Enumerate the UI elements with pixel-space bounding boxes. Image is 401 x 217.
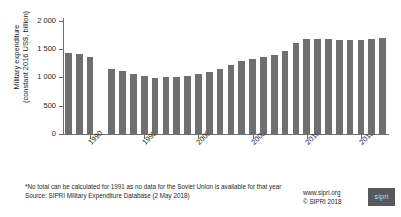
sipri-logo: sipri (368, 188, 395, 206)
copyright-text: © SIPRI 2018 (303, 198, 363, 207)
bar (163, 77, 170, 134)
bar (173, 77, 180, 134)
bar (260, 57, 267, 134)
bar-series (63, 14, 388, 134)
bar (152, 78, 159, 134)
bar (108, 69, 115, 134)
bar (249, 59, 256, 134)
bar (303, 39, 310, 134)
bar (379, 38, 386, 134)
bar (130, 74, 137, 134)
footer-notes: *No total can be calculated for 1991 as … (25, 182, 315, 200)
y-axis-title-line2: (constant 2016 US$, billion) (21, 11, 30, 103)
bar (76, 54, 83, 134)
y-tick-label: 1 000 (0, 73, 56, 81)
bar (217, 69, 224, 134)
footnote-text: *No total can be calculated for 1991 as … (25, 182, 315, 191)
y-tick-mark (59, 134, 63, 135)
bar (347, 40, 354, 134)
bar (293, 43, 300, 134)
bar (206, 72, 213, 134)
credit-block: www.sipri.org © SIPRI 2018 (303, 189, 363, 206)
bar (314, 39, 321, 134)
bar (87, 57, 94, 134)
bar (65, 53, 72, 134)
source-text: Source: SIPRI Military Expenditure Datab… (25, 191, 315, 200)
x-axis-line (63, 134, 389, 135)
bar (228, 65, 235, 134)
bar (358, 40, 365, 134)
chart-figure: Military expenditure (constant 2016 US$,… (0, 0, 401, 217)
y-tick-label: 1 500 (0, 45, 56, 53)
bar (238, 61, 245, 134)
bar (325, 39, 332, 134)
bar (184, 76, 191, 134)
bar (282, 51, 289, 134)
y-tick-label: 500 (0, 102, 56, 110)
bar (336, 40, 343, 134)
y-tick-label: 0 (0, 130, 56, 138)
website-link[interactable]: www.sipri.org (303, 189, 363, 198)
bar (271, 55, 278, 134)
y-tick-label: 2 000 (0, 17, 56, 25)
bar (195, 74, 202, 134)
bar (119, 71, 126, 134)
bar (368, 39, 375, 134)
bar (141, 76, 148, 134)
